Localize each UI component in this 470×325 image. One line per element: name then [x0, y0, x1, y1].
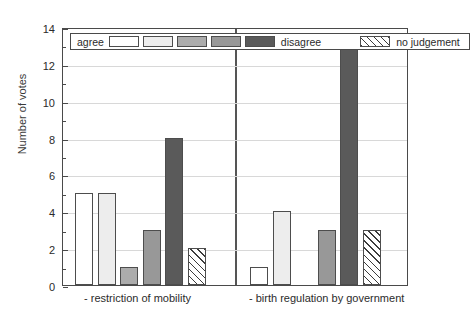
- y-tick-minor: [63, 84, 66, 85]
- y-tick-label: 6: [17, 170, 63, 182]
- y-tick-minor: [63, 195, 66, 196]
- y-tick-minor: [63, 47, 66, 48]
- y-tick-major: [63, 66, 68, 67]
- legend-swatch-3: [177, 36, 207, 47]
- bar: [165, 138, 183, 285]
- y-tick-label: 2: [17, 244, 63, 256]
- y-tick-major: [63, 140, 68, 141]
- bar: [98, 193, 116, 285]
- legend-swatch-4: [211, 36, 241, 47]
- y-tick-label: 10: [17, 97, 63, 109]
- y-axis-title: Number of votes: [16, 54, 28, 174]
- x-group-label: - birth regulation by government: [249, 292, 404, 304]
- bar: [143, 230, 161, 285]
- legend-label-no-judgement: no judgement: [396, 36, 460, 48]
- legend-swatch-2: [143, 36, 173, 47]
- y-tick-label: 12: [17, 60, 63, 72]
- y-tick-label: 14: [17, 23, 63, 35]
- y-tick-minor: [63, 121, 66, 122]
- x-group-label: - restriction of mobility: [84, 292, 191, 304]
- legend-swatch-1: [109, 36, 139, 47]
- y-tick-label: 8: [17, 134, 63, 146]
- y-tick-major: [63, 29, 68, 30]
- y-tick-label: 0: [17, 281, 63, 293]
- y-tick-major: [63, 213, 68, 214]
- y-tick-minor: [63, 269, 66, 270]
- y-tick-minor: [63, 232, 66, 233]
- bar: [318, 230, 336, 285]
- legend-swatch-no-judgement: [360, 36, 390, 47]
- legend-label-disagree: disagree: [281, 36, 321, 48]
- plot-area: 02468101214: [62, 28, 408, 286]
- chart-legend: agree disagree no judgement: [70, 33, 470, 50]
- bar: [363, 230, 381, 285]
- y-tick-major: [63, 103, 68, 104]
- group-divider: [235, 29, 237, 285]
- bar: [250, 267, 268, 285]
- bar: [273, 211, 291, 285]
- bar: [188, 248, 206, 285]
- y-tick-minor: [63, 158, 66, 159]
- bar: [120, 267, 138, 285]
- legend-label-agree: agree: [77, 36, 104, 48]
- legend-swatch-5: [245, 36, 275, 47]
- bar: [340, 45, 358, 285]
- y-tick-major: [63, 176, 68, 177]
- y-tick-major: [63, 250, 68, 251]
- y-tick-label: 4: [17, 207, 63, 219]
- y-tick-major: [63, 287, 68, 288]
- bar: [75, 193, 93, 285]
